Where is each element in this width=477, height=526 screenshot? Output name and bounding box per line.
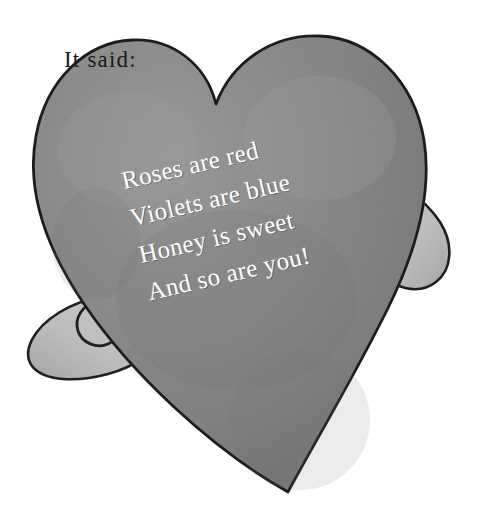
caption-it-said: It said: xyxy=(64,48,137,71)
illustration-page: It said: Roses are red Violets are blue … xyxy=(0,0,477,526)
